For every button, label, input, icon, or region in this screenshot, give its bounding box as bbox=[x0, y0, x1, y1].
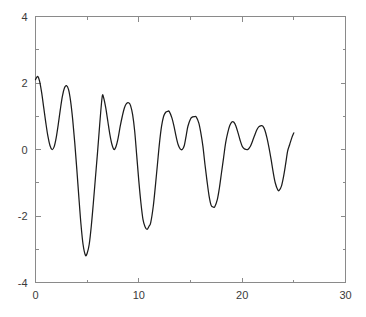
y-tick-label: 4 bbox=[21, 11, 27, 23]
y-tick-label: -4 bbox=[18, 277, 28, 289]
y-tick-label: -2 bbox=[18, 210, 28, 222]
y-tick-label: 0 bbox=[21, 144, 27, 156]
y-tick-label: 2 bbox=[21, 77, 27, 89]
chart-background bbox=[0, 0, 366, 317]
line-chart: 0102030 -4-2024 bbox=[0, 0, 366, 317]
x-tick-label: 0 bbox=[32, 289, 38, 301]
x-tick-label: 20 bbox=[236, 289, 248, 301]
x-tick-label: 10 bbox=[133, 289, 145, 301]
chart-figure: 0102030 -4-2024 bbox=[0, 0, 366, 317]
x-tick-label: 30 bbox=[339, 289, 351, 301]
